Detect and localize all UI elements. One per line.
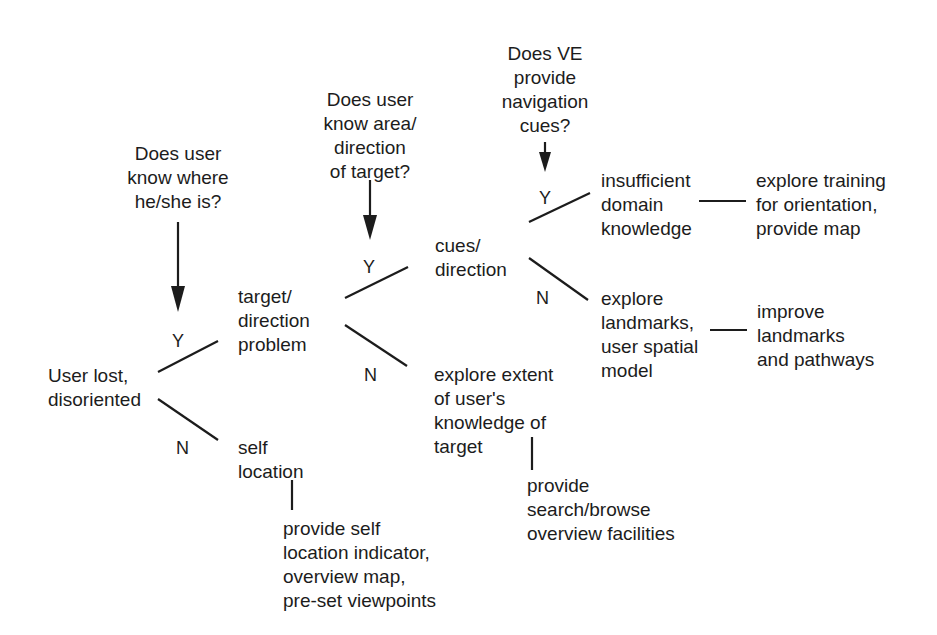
branch-label-cues-yes: Y — [539, 188, 551, 208]
recommendation-improve-landmarks: improve landmarks and pathways — [757, 300, 907, 372]
branch-label-root-no: N — [176, 438, 189, 458]
node-insufficient-domain-knowledge: insufficient domain knowledge — [601, 169, 711, 241]
branch-label-target-no: N — [364, 365, 377, 385]
node-user-lost: User lost, disoriented — [48, 364, 168, 412]
node-explore-extent: explore extent of user's knowledge of ta… — [434, 363, 584, 459]
node-self-location: self location — [238, 436, 338, 484]
node-cues-direction: cues/ direction — [435, 234, 535, 282]
recommendation-training-map: explore training for orientation, provid… — [756, 169, 916, 241]
node-explore-landmarks: explore landmarks, user spatial model — [601, 287, 721, 383]
node-target-direction-problem: target/ direction problem — [238, 285, 348, 357]
branch-label-cues-no: N — [536, 288, 549, 308]
branch-label-target-yes: Y — [363, 257, 375, 277]
question-navigation-cues: Does VE provide navigation cues? — [490, 42, 600, 138]
arrow-q2-icon — [363, 180, 377, 240]
decision-tree-diagram: Does user know where he/she is? Does use… — [0, 0, 937, 635]
question-know-target-direction: Does user know area/ direction of target… — [300, 88, 440, 184]
question-know-location: Does user know where he/she is? — [112, 142, 244, 214]
branch-label-root-yes: Y — [172, 331, 184, 351]
arrow-q1-icon — [171, 222, 185, 312]
recommendation-self-location-indicator: provide self location indicator, overvie… — [283, 517, 473, 613]
recommendation-search-browse: provide search/browse overview facilitie… — [527, 474, 697, 546]
arrow-q3-icon — [539, 142, 551, 172]
